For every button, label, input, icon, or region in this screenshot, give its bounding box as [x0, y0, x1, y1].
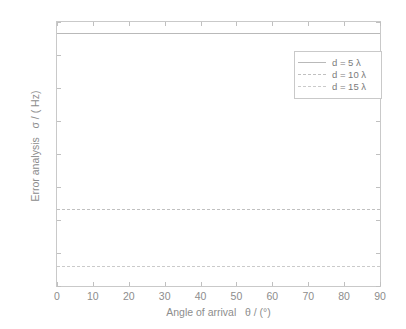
legend-item-label: d = 15 λ: [332, 82, 366, 92]
legend-item[interactable]: d = 5 λ: [298, 57, 377, 69]
x-tick-mark: [380, 282, 381, 286]
y-tick-mark: [57, 121, 61, 122]
legend-line-sample-icon: [298, 62, 326, 64]
x-tick-mark: [57, 22, 58, 26]
y-tick-mark: [376, 121, 380, 122]
y-tick-mark: [57, 55, 61, 56]
y-tick-mark: [57, 187, 61, 188]
legend-item-label: d = 10 λ: [332, 70, 366, 80]
x-tick-mark: [272, 22, 273, 26]
x-tick-label: 50: [216, 291, 256, 301]
y-tick-mark: [376, 154, 380, 155]
chart-figure: 1502002503003504004505005500102030405060…: [0, 0, 406, 329]
x-tick-mark: [380, 22, 381, 26]
y-tick-mark: [376, 253, 380, 254]
x-tick-mark: [57, 282, 58, 286]
y-tick-mark: [57, 253, 61, 254]
legend[interactable]: d = 5 λd = 10 λd = 15 λ: [294, 51, 382, 99]
legend-line-sample-icon: [298, 86, 326, 88]
x-axis-label: Angle of arrival θ / (°): [56, 306, 381, 318]
x-tick-mark: [165, 282, 166, 286]
series-line-3: [57, 266, 380, 267]
x-tick-mark: [93, 22, 94, 26]
x-tick-mark: [344, 22, 345, 26]
x-tick-label: 30: [145, 291, 185, 301]
series-line-2: [57, 209, 380, 210]
x-tick-label: 60: [252, 291, 292, 301]
x-tick-label: 80: [324, 291, 364, 301]
y-tick-mark: [57, 154, 61, 155]
x-tick-mark: [129, 22, 130, 26]
x-tick-mark: [308, 22, 309, 26]
x-tick-label: 0: [37, 291, 77, 301]
y-tick-mark: [376, 286, 380, 287]
y-tick-mark: [376, 187, 380, 188]
legend-item-label: d = 5 λ: [332, 58, 361, 68]
y-tick-mark: [57, 220, 61, 221]
x-tick-mark: [344, 282, 345, 286]
x-tick-label: 20: [109, 291, 149, 301]
x-tick-mark: [129, 282, 130, 286]
x-tick-mark: [308, 282, 309, 286]
x-tick-label: 40: [181, 291, 221, 301]
x-tick-mark: [236, 22, 237, 26]
x-tick-mark: [236, 282, 237, 286]
y-tick-mark: [376, 220, 380, 221]
y-axis-label: Error analysis σ / ( Hz): [29, 16, 41, 276]
x-tick-mark: [165, 22, 166, 26]
y-tick-mark: [57, 88, 61, 89]
series-line-1: [57, 33, 380, 34]
plot-area: 1502002503003504004505005500102030405060…: [56, 21, 381, 287]
y-tick-mark: [57, 286, 61, 287]
x-tick-mark: [201, 282, 202, 286]
x-tick-mark: [272, 282, 273, 286]
legend-item[interactable]: d = 10 λ: [298, 69, 377, 81]
x-tick-label: 90: [360, 291, 400, 301]
x-tick-mark: [93, 282, 94, 286]
x-tick-label: 70: [288, 291, 328, 301]
x-tick-label: 10: [73, 291, 113, 301]
legend-line-sample-icon: [298, 74, 326, 76]
legend-item[interactable]: d = 15 λ: [298, 81, 377, 93]
x-tick-mark: [201, 22, 202, 26]
